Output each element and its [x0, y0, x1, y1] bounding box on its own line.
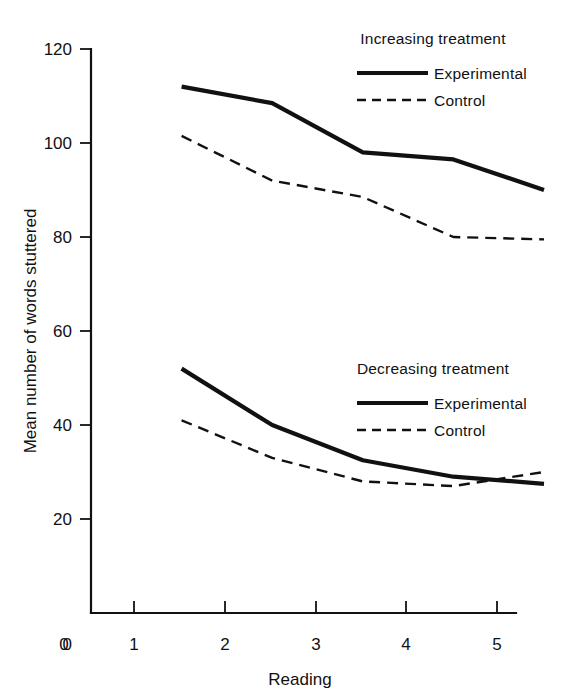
y-tick-labels: 120 100 80 60 40 20 0	[44, 40, 72, 654]
y-tick-label-60: 60	[53, 322, 72, 341]
axis-group	[91, 49, 516, 613]
line-chart: 120 100 80 60 40 20 0 0 1 2 3 4 5 Readin…	[0, 0, 566, 694]
y-axis-title: Mean number of words stuttered	[21, 209, 40, 454]
y-tick-marks	[80, 49, 91, 519]
y-tick-label-120: 120	[44, 40, 72, 59]
y-tick-label-100: 100	[44, 134, 72, 153]
legend-decreasing-control-label: Control	[434, 422, 485, 439]
x-tick-label-1: 1	[129, 635, 138, 654]
y-tick-label-20: 20	[53, 510, 72, 529]
legend-increasing-control-label: Control	[434, 92, 485, 109]
series-increasing-experimental	[182, 87, 544, 190]
legend-increasing-experimental-label: Experimental	[434, 65, 527, 82]
y-tick-label-40: 40	[53, 416, 72, 435]
x-tick-label-0: 0	[59, 635, 68, 654]
x-tick-labels: 0 1 2 3 4 5	[59, 635, 501, 654]
legend-increasing-treatment: Increasing treatment Experimental Contro…	[357, 30, 527, 109]
x-tick-label-5: 5	[492, 635, 501, 654]
x-tick-marks	[134, 601, 497, 613]
x-axis-title: Reading	[268, 670, 331, 689]
legend-decreasing-title: Decreasing treatment	[357, 360, 510, 377]
legend-decreasing-experimental-label: Experimental	[434, 395, 527, 412]
x-tick-label-4: 4	[401, 635, 410, 654]
x-tick-label-3: 3	[311, 635, 320, 654]
legend-increasing-title: Increasing treatment	[360, 30, 506, 47]
chart-figure: 120 100 80 60 40 20 0 0 1 2 3 4 5 Readin…	[0, 0, 566, 694]
x-tick-label-2: 2	[220, 635, 229, 654]
legend-decreasing-treatment: Decreasing treatment Experimental Contro…	[357, 360, 527, 439]
y-tick-label-80: 80	[53, 228, 72, 247]
series-decreasing-experimental	[182, 369, 544, 484]
